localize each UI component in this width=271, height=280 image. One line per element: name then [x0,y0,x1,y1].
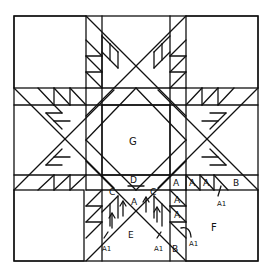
label-a1-right-row: A1 [217,200,226,208]
label-col-b: B [172,244,178,254]
label-a-center: A [131,197,138,207]
feathers-left-top [38,88,86,129]
label-row-b: B [233,178,239,188]
label-col-a-1: A [174,195,181,205]
feathers-left-bottom [38,149,86,190]
feathers-left-column [86,190,102,238]
label-d: D [130,175,137,185]
label-g: G [129,136,137,147]
label-row-a-1: A [173,178,180,188]
label-f: F [211,222,217,233]
label-row-a-2: A [189,178,196,188]
label-c-right: C [150,187,156,197]
corner-square-top-right [186,16,258,88]
feathers-right-top [186,88,234,129]
label-col-a-2: A [174,210,181,220]
label-a1-right-arm: A1 [154,245,163,253]
corner-square-bottom-left [14,190,84,261]
label-a1-left-arm: A1 [102,245,111,253]
label-row-a-3: A [203,178,210,188]
label-e: E [128,230,134,240]
corner-square-top-left [14,16,86,88]
quilt-block-diagram: G D C C A E F A A A B A A B A1 A1 A1 A1 [0,0,271,280]
label-c-left: C [109,187,115,197]
label-a1-right-col: A1 [189,240,198,248]
